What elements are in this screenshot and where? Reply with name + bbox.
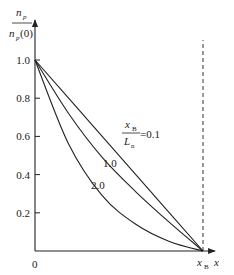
svg-text:0.8: 0.8 [16, 92, 30, 104]
svg-text:=0.1: =0.1 [140, 128, 160, 140]
chart: n p n p (0) 0.20.40.60.81.0 0 x B x x B … [0, 0, 234, 275]
svg-text:x: x [124, 118, 130, 130]
svg-text:n: n [9, 27, 15, 39]
svg-text:x: x [196, 256, 202, 268]
svg-text:1.0: 1.0 [16, 54, 30, 66]
svg-text:0.2: 0.2 [16, 207, 30, 219]
x-tick-labels: 0 x B x [32, 256, 219, 271]
svg-text:B: B [132, 125, 137, 133]
series-label-1-0: 1.0 [103, 157, 117, 169]
svg-text:0.6: 0.6 [16, 130, 30, 142]
y-axis-label: n p n p (0) [9, 6, 33, 42]
svg-text:0.4: 0.4 [16, 169, 30, 181]
series-label-2-0: 2.0 [91, 179, 105, 191]
x-axis-label: x [213, 256, 219, 268]
svg-text:(0): (0) [20, 27, 33, 40]
series-lines [35, 60, 203, 251]
svg-text:p: p [22, 13, 27, 21]
svg-text:n: n [16, 6, 22, 18]
svg-text:B: B [204, 263, 209, 271]
svg-text:n: n [131, 142, 135, 150]
annotation-xb-over-ln: x B L n =0.1 [122, 118, 160, 150]
svg-text:0: 0 [32, 258, 38, 270]
svg-text:L: L [123, 135, 130, 147]
series-line-01 [35, 60, 203, 251]
y-ticks: 0.20.40.60.81.0 [16, 54, 40, 219]
